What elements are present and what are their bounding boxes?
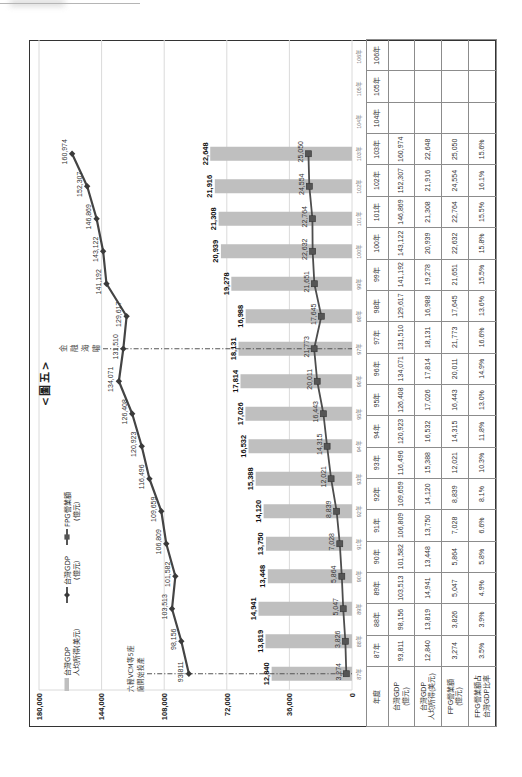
point-value-label: 98,156 [170, 628, 177, 650]
row-header-line: 台灣GDP [420, 667, 428, 726]
value-cell: 25,050 [442, 134, 469, 165]
bar-value-label: 20,939 [211, 240, 220, 263]
row-header-line: (億元) [402, 667, 410, 726]
legend-diamond-icon [64, 592, 70, 598]
row-header: FPG營業額占台灣GDP比率 [469, 667, 497, 727]
x-axis-tick-label: 94年 [355, 440, 363, 452]
annotation-text: 嘯 [91, 344, 101, 352]
point-value-label: 16,443 [312, 401, 319, 423]
value-cell: 16,532 [415, 416, 442, 447]
point-value-label: 116,496 [138, 464, 145, 489]
value-cell: 3,274 [442, 635, 469, 666]
bar-value-label: 14,941 [249, 597, 258, 620]
x-axis-tick-label: 89年 [355, 603, 363, 615]
diamond-marker-icon [186, 671, 192, 677]
row-header-line: 台灣GDP [393, 667, 401, 726]
legend-item: FPG營業額(億元) [63, 492, 81, 545]
x-axis-tick-label: 105年 [355, 81, 363, 96]
value-cell [469, 40, 497, 71]
x-axis-tick-label: 106年 [355, 49, 363, 64]
point-value-label: 12,021 [320, 466, 327, 488]
square-marker-icon [342, 638, 348, 644]
diamond-marker-icon [139, 443, 145, 449]
value-cell: 13,750 [415, 510, 442, 541]
value-cell: 12,840 [415, 635, 442, 666]
square-marker-icon [309, 216, 315, 222]
bar-value-label: 16,988 [236, 305, 245, 328]
x-axis-tick-label: 100年 [355, 244, 363, 259]
value-cell: 7,028 [442, 510, 469, 541]
x-axis-tick-label: 104年 [355, 114, 363, 129]
value-cell: 134,071 [389, 353, 415, 384]
point-value-label: 152,307 [76, 171, 83, 196]
point-value-label: 3,826 [334, 630, 341, 648]
value-cell: 109,659 [389, 478, 415, 509]
point-value-label: 126,408 [121, 399, 128, 424]
square-marker-icon [337, 541, 343, 547]
year-cell: 96年 [367, 353, 389, 384]
point-value-label: 103,513 [161, 594, 168, 619]
point-value-label: 5,864 [330, 565, 337, 583]
year-cell: 92年 [367, 478, 389, 509]
value-cell [389, 40, 415, 71]
value-cell: 11.8% [469, 416, 497, 447]
value-cell: 24,554 [442, 165, 469, 196]
value-cell [469, 102, 497, 133]
square-marker-icon [305, 151, 311, 157]
legend-bar-swatch-icon [65, 678, 70, 691]
value-cell: 5,047 [442, 572, 469, 603]
legend-item: 台灣GDP人均所得(美元) [63, 628, 81, 691]
value-cell: 18,131 [415, 322, 442, 353]
point-value-label: 22,632 [301, 238, 308, 260]
value-cell: 4.9% [469, 572, 497, 603]
y-axis-tick-label: 108,000 [160, 693, 169, 720]
row-header: 年度 [367, 667, 389, 727]
row-header-line: (億元) [455, 667, 463, 726]
point-value-label: 25,050 [297, 141, 304, 163]
value-cell: 20,939 [415, 228, 442, 259]
value-cell: 19,278 [415, 259, 442, 290]
bar [256, 472, 352, 486]
value-cell: 160,974 [389, 134, 415, 165]
row-header-line: 台灣GDP比率 [483, 667, 491, 726]
bar-value-label: 17,026 [236, 402, 245, 425]
value-cell: 13,819 [415, 604, 442, 635]
point-value-label: 7,028 [328, 533, 335, 551]
square-marker-icon [334, 508, 340, 514]
legend-label: 台灣GDP [63, 556, 72, 585]
point-value-label: 17,645 [310, 303, 317, 325]
square-marker-icon [340, 606, 346, 612]
year-cell: 101年 [367, 196, 389, 227]
table-row-gdp: 台灣GDP(億元)93,81198,156103,513101,582106,8… [389, 40, 415, 727]
year-cell: 91年 [367, 510, 389, 541]
value-cell: 106,809 [389, 510, 415, 541]
value-cell: 5.8% [469, 541, 497, 572]
bar-value-label: 13,819 [256, 630, 265, 653]
year-cell: 95年 [367, 384, 389, 415]
value-cell: 152,307 [389, 165, 415, 196]
bar [245, 407, 352, 421]
value-cell: 15.5% [469, 259, 497, 290]
bar-value-label: 12,840 [262, 662, 271, 685]
year-cell: 87年 [367, 635, 389, 666]
value-cell: 12,021 [442, 447, 469, 478]
gridlines [39, 40, 352, 690]
value-cell: 10.3% [469, 447, 497, 478]
square-marker-icon [343, 671, 349, 677]
point-value-label: 14,315 [316, 433, 323, 455]
value-cell: 17,814 [415, 353, 442, 384]
point-value-label: 93,811 [177, 661, 184, 682]
square-marker-icon [310, 248, 316, 254]
year-cell: 103年 [367, 134, 389, 165]
legend: 台灣GDP人均所得(美元)台灣GDP(億元)FPG營業額(億元) [63, 492, 81, 691]
x-axis-tick-label: 103年 [355, 146, 363, 161]
year-cell: 104年 [367, 102, 389, 133]
square-marker-icon [324, 443, 330, 449]
y-axis-tick-label: 144,000 [97, 693, 106, 720]
value-cell: 103,513 [389, 572, 415, 603]
y-axis-tick-label: 36,000 [285, 693, 294, 716]
value-cell [415, 40, 442, 71]
annotation-text: 六輕VCM等5座 [126, 645, 135, 692]
x-axis: 87年88年89年90年91年92年93年94年95年96年97年98年99年1… [355, 49, 363, 680]
square-marker-icon [311, 281, 317, 287]
